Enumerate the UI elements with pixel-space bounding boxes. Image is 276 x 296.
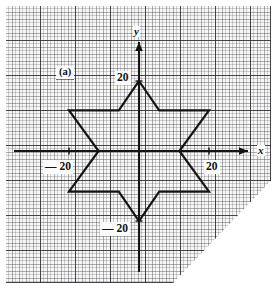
x-tick-label-20: 20 [204,160,220,174]
graph-paper-sheet [6,6,271,283]
x-tick-label-minus-20: — 20 [43,160,73,174]
y-tick-label-minus-20: — 20 [100,222,130,236]
x-axis-label: x [257,145,265,156]
figure-page: (a) y x 20 20 — 20 — 20 [0,0,276,296]
y-axis-label: y [133,26,140,37]
figure-tag-label: (a) [56,66,74,79]
y-tick-label-20: 20 [115,71,131,85]
